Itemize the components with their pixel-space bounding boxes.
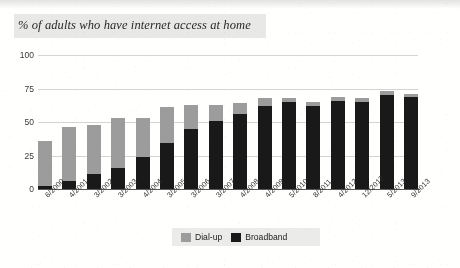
bar-4-2009 [258, 98, 272, 189]
y-axis-tick-0: 0 [4, 185, 34, 193]
y-axis-tick-100: 100 [4, 51, 34, 59]
bar-segment-dial-up [160, 107, 174, 143]
bar-segment-dial-up [209, 105, 223, 121]
bar-4-2008 [233, 103, 247, 189]
bar-segment-dial-up [233, 103, 247, 114]
legend-label-broadband: Broadband [245, 232, 287, 242]
gridline-100 [38, 55, 418, 56]
bar-segment-broadband [184, 129, 198, 189]
bar-segment-dial-up [62, 127, 76, 181]
gridline-75 [38, 89, 418, 90]
legend-item-dial-up: Dial-up [181, 232, 222, 242]
chart-page: % of adults who have internet access at … [0, 0, 460, 268]
bar-segment-dial-up [38, 141, 52, 187]
chart-legend: Dial-up Broadband [172, 228, 320, 246]
legend-item-broadband: Broadband [231, 232, 287, 242]
bar-segment-broadband [209, 121, 223, 189]
bar-3-2003 [111, 118, 125, 189]
bar-4-2004 [136, 118, 150, 189]
y-axis-tick-50: 50 [4, 118, 34, 126]
bar-segment-broadband [282, 102, 296, 189]
bar-segment-dial-up [258, 98, 272, 106]
dialup-swatch-icon [181, 233, 191, 242]
bar-8-2011 [306, 102, 320, 189]
y-axis-tick-75: 75 [4, 85, 34, 93]
legend-label-dial-up: Dial-up [195, 232, 222, 242]
bar-segment-dial-up [111, 118, 125, 168]
plot-area [38, 55, 418, 189]
bar-12-2012 [355, 98, 369, 189]
y-axis-labels: 0255075100 [2, 55, 34, 189]
bar-4-2001 [62, 127, 76, 189]
bar-segment-dial-up [184, 105, 198, 129]
bar-3-2002 [87, 125, 101, 189]
bar-3-2007 [209, 105, 223, 189]
bar-segment-broadband [404, 97, 418, 189]
bar-segment-broadband [233, 114, 247, 189]
bar-segment-broadband [331, 101, 345, 189]
y-axis-tick-25: 25 [4, 152, 34, 160]
bar-3-2006 [184, 105, 198, 189]
bar-9-2013 [404, 94, 418, 189]
bar-segment-broadband [258, 106, 272, 189]
bar-4-2012 [331, 97, 345, 189]
bar-6-2000 [38, 141, 52, 189]
broadband-swatch-icon [231, 233, 241, 242]
bar-5-2010 [282, 98, 296, 189]
bar-segment-broadband [136, 157, 150, 189]
bar-5-2013 [380, 91, 394, 189]
bar-segment-broadband [306, 106, 320, 189]
scan-streak [0, 0, 460, 9]
page-title: % of adults who have internet access at … [18, 18, 268, 33]
bar-segment-dial-up [87, 125, 101, 175]
bar-segment-dial-up [136, 118, 150, 157]
bar-segment-broadband [355, 102, 369, 189]
bar-3-2005 [160, 107, 174, 189]
